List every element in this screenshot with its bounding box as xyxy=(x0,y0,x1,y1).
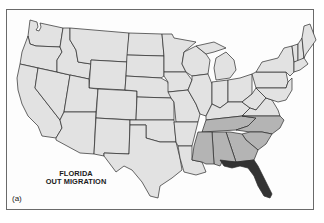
state-arizona xyxy=(56,112,96,154)
state-montana xyxy=(70,28,129,64)
state-kansas xyxy=(136,97,174,120)
state-washington xyxy=(28,20,63,47)
us-map xyxy=(0,0,324,223)
state-wyoming xyxy=(89,60,127,90)
state-colorado xyxy=(96,89,137,120)
state-pennsylvania xyxy=(252,72,288,88)
map-title: FLORIDA OUT MIGRATION xyxy=(36,170,116,186)
state-south-dakota xyxy=(126,55,164,78)
state-florida xyxy=(220,160,272,198)
state-north-dakota xyxy=(127,33,164,56)
state-arkansas xyxy=(174,122,198,146)
state-mississippi xyxy=(192,132,214,164)
title-line-2: OUT MIGRATION xyxy=(36,178,116,186)
panel-label: (a) xyxy=(12,194,22,203)
state-new-york xyxy=(256,46,294,76)
state-maine xyxy=(302,24,316,58)
state-iowa xyxy=(164,72,192,92)
state-new-mexico xyxy=(94,118,130,156)
